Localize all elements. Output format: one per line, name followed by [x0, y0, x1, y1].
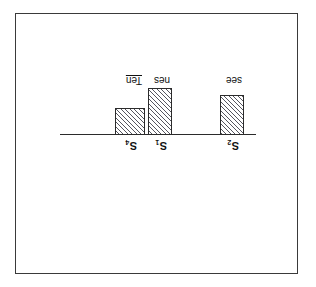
word-label-nes: nes: [154, 75, 170, 85]
bar-s1: [148, 88, 172, 135]
bar-label-s1: S1: [156, 140, 167, 151]
bar-label-s1-symbol: S: [160, 140, 167, 152]
bar-label-s2: S2: [228, 140, 239, 151]
bar-label-s1-subscript: 1: [155, 139, 159, 146]
bar-label-s2-subscript: 2: [227, 139, 231, 146]
bar-label-s4: S4: [126, 140, 137, 151]
figure-frame: S2 see S1 nes S4 Ten: [15, 13, 298, 274]
word-label-ten: Ten: [126, 75, 142, 85]
plot-area: S2 see S1 nes S4 Ten: [16, 14, 299, 275]
figure-page: S2 see S1 nes S4 Ten: [0, 0, 316, 287]
bar-label-s4-subscript: 4: [125, 139, 129, 146]
bar-label-s4-symbol: S: [130, 140, 137, 152]
bar-label-s2-symbol: S: [232, 140, 239, 152]
word-label-see: see: [226, 75, 242, 85]
bar-s2: [220, 95, 244, 135]
rotated-plot-container: S2 see S1 nes S4 Ten: [16, 14, 299, 275]
bar-s4: [115, 108, 145, 135]
